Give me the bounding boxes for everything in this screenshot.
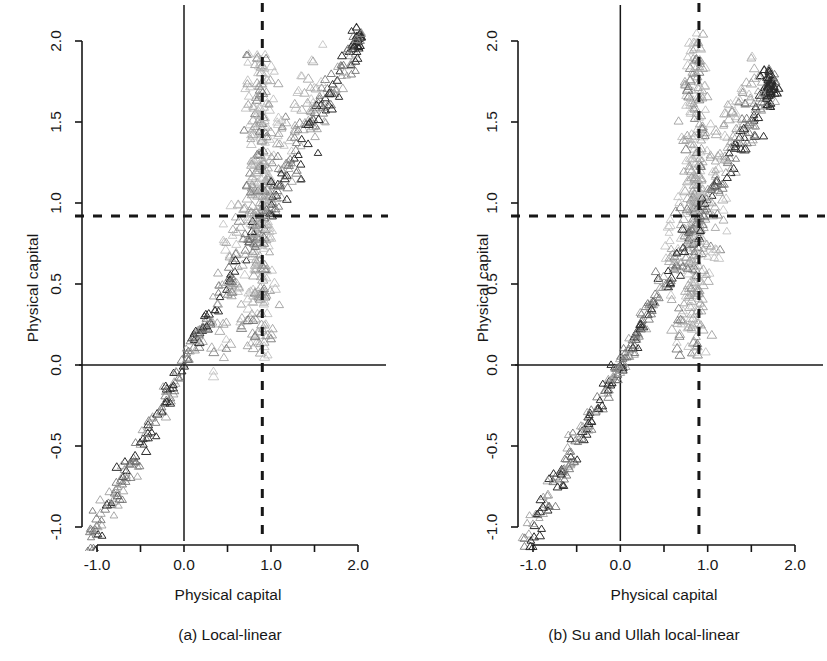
y-axis-title-a: Physical capital	[24, 213, 42, 363]
x-axis-title-a: Physical capital	[96, 586, 360, 604]
panel-su-ullah-local-linear: Physical capital Physical capital (b) Su…	[414, 0, 827, 661]
x-tick-label: 2.0	[784, 556, 806, 574]
x-tick-label: 1.0	[697, 556, 719, 574]
y-tick-label: 1.5	[483, 111, 501, 133]
panel-caption-a: (a) Local-linear	[60, 626, 400, 644]
data-points	[83, 23, 366, 564]
x-tick-label: -1.0	[84, 556, 111, 574]
y-tick-label: -1.0	[483, 514, 501, 541]
panel-local-linear: Physical capital Physical capital (a) Lo…	[0, 0, 413, 661]
x-tick-label: 0.0	[610, 556, 632, 574]
x-tick-label: 2.0	[347, 556, 369, 574]
x-axis	[533, 545, 795, 552]
x-tick-label: -1.0	[520, 556, 547, 574]
y-axis	[511, 41, 518, 527]
y-axis	[75, 41, 82, 527]
y-tick-label: -0.5	[483, 433, 501, 460]
data-points	[518, 29, 783, 549]
y-tick-label: 1.5	[47, 111, 65, 133]
y-tick-label: 0.0	[47, 354, 65, 376]
y-tick-label: 0.5	[47, 273, 65, 295]
x-tick-label: 0.0	[173, 556, 195, 574]
y-tick-label: 2.0	[483, 30, 501, 52]
y-tick-label: 1.0	[483, 192, 501, 214]
y-tick-label: 2.0	[47, 30, 65, 52]
y-tick-label: -0.5	[47, 433, 65, 460]
x-axis	[97, 545, 358, 552]
panel-caption-b: (b) Su and Ullah local-linear	[474, 626, 814, 644]
y-tick-label: -1.0	[47, 514, 65, 541]
y-tick-label: 0.5	[483, 273, 501, 295]
x-tick-label: 1.0	[260, 556, 282, 574]
y-tick-label: 1.0	[47, 192, 65, 214]
x-axis-title-b: Physical capital	[532, 586, 796, 604]
scatter-figure: Physical capital Physical capital (a) Lo…	[0, 0, 827, 661]
y-tick-label: 0.0	[483, 354, 501, 376]
